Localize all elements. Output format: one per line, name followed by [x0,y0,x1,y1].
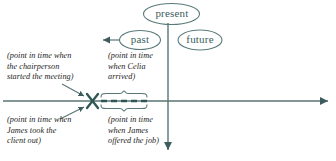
future-bubble-label: future [178,34,222,45]
past-bubble-label: past [120,34,160,45]
annotation-celia: (point in time when Celia arrived) [108,51,170,83]
annotation-james-took-client-out: (point in time when James took the clien… [7,115,111,147]
present-bubble-label: present [144,8,200,19]
chairperson-pointer [62,84,84,96]
annotation-chairperson: (point in time when the chairperson star… [7,51,111,83]
upper-brace [101,91,147,98]
annotation-james-offered-job: (point in time when James offered the jo… [108,115,174,147]
lower-brace [101,105,147,112]
timeline-diagram: present past future (point in time when … [0,0,336,161]
